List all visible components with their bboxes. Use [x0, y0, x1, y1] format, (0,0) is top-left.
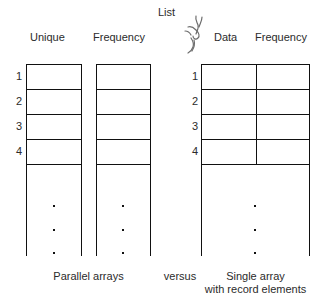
ellipsis-dot-single-2: [254, 229, 256, 231]
row-number-unique-4: 4: [10, 145, 22, 158]
header-unique: Unique: [30, 31, 65, 44]
cell-divider-freq-parallel-2: [96, 114, 151, 115]
ellipsis-dot-single-3: [254, 252, 256, 254]
cell-divider-freq-parallel-4: [96, 164, 151, 165]
array-column-unique: [26, 64, 82, 256]
caption-versus: versus: [157, 270, 203, 283]
ellipsis-dot-freq-parallel-2: [122, 229, 124, 231]
cell-divider-unique-4: [26, 164, 82, 165]
header-frequency-single: Frequency: [255, 31, 307, 44]
row-number-single-4: 4: [186, 145, 198, 158]
cell-divider-freq-parallel-3: [96, 139, 151, 140]
array-column-frequency-parallel: [96, 64, 151, 256]
ellipsis-dot-single-1: [254, 205, 256, 207]
cell-divider-freq-parallel-1: [96, 89, 151, 90]
cell-divider-unique-2: [26, 114, 82, 115]
header-data: Data: [214, 31, 237, 44]
header-frequency-parallel: Frequency: [93, 31, 145, 44]
row-number-single-3: 3: [186, 120, 198, 133]
row-number-unique-2: 2: [10, 95, 22, 108]
ellipsis-dot-freq-parallel-3: [122, 252, 124, 254]
ellipsis-dot-unique-3: [53, 252, 55, 254]
caption-single-array-line1: Single array: [201, 270, 310, 283]
row-number-single-2: 2: [186, 95, 198, 108]
ellipsis-dot-freq-parallel-1: [122, 205, 124, 207]
ellipsis-dot-unique-1: [53, 205, 55, 207]
row-number-unique-1: 1: [10, 70, 22, 83]
list-label: List: [158, 6, 175, 19]
caption-single-array-line2: with record elements: [191, 283, 320, 296]
cell-divider-unique-1: [26, 89, 82, 90]
record-field-divider: [256, 64, 257, 165]
ellipsis-dot-unique-2: [53, 229, 55, 231]
handwritten-squiggle-icon: [182, 14, 212, 60]
cell-divider-unique-3: [26, 139, 82, 140]
figure-parallel-arrays-vs-single-array: List Unique Frequency Data Frequency 1 2…: [0, 0, 321, 304]
caption-parallel-arrays: Parallel arrays: [26, 270, 151, 283]
row-number-single-1: 1: [186, 70, 198, 83]
row-number-unique-3: 3: [10, 120, 22, 133]
